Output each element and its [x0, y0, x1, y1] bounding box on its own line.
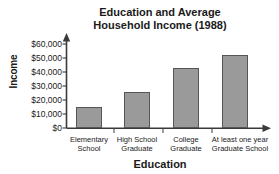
- x-tick-line-2: Graduate: [110, 144, 164, 153]
- bar-college-graduate: [173, 68, 199, 128]
- x-tick-line-2: Graduate School: [204, 144, 276, 153]
- bar-elementary-school: [76, 107, 102, 128]
- x-tick-line-1: High School: [110, 135, 164, 144]
- x-tick-line-1: Elementary: [62, 135, 116, 144]
- chart-figure: Education and Average Household Income (…: [0, 0, 279, 174]
- x-axis-title: Education: [60, 158, 260, 170]
- x-axis-tick-label-high-school-graduate: High School Graduate: [110, 135, 164, 153]
- x-axis-tick-label-graduate-school: At least one year Graduate School: [204, 135, 276, 153]
- bar-high-school-graduate: [124, 92, 150, 128]
- x-tick-line-1: At least one year: [204, 135, 276, 144]
- x-axis-tick-label-elementary-school: Elementary School: [62, 135, 116, 153]
- bar-graduate-school: [222, 55, 248, 128]
- x-tick-line-2: School: [62, 144, 116, 153]
